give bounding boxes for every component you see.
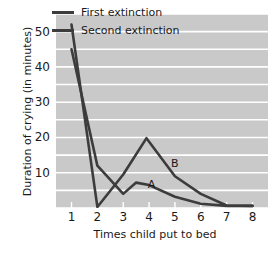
legend-item-second-extinction: Second extinction	[52, 21, 202, 39]
x-tick-label: 5	[165, 210, 185, 224]
legend-label-first-extinction: First extinction	[81, 6, 162, 19]
curve-annotation-b: B	[171, 157, 179, 170]
y-tick-label: 20	[28, 131, 50, 143]
series-line-B	[72, 25, 253, 207]
legend-swatch-first-extinction	[52, 11, 74, 14]
y-tick-label: 50	[28, 26, 50, 38]
gridlines	[56, 14, 268, 208]
x-tick-label: 4	[139, 210, 159, 224]
chart-legend: First extinction Second extinction	[52, 3, 202, 39]
x-tick-label: 6	[191, 210, 211, 224]
plot-svg	[56, 14, 268, 208]
series-lines	[72, 25, 253, 207]
x-tick-label: 1	[62, 210, 82, 224]
legend-swatch-second-extinction	[52, 29, 74, 32]
x-axis-tick-labels: 12345678	[56, 210, 268, 226]
y-tick-label: 30	[28, 96, 50, 108]
x-tick-label: 2	[87, 210, 107, 224]
y-tick-label: 40	[28, 61, 50, 73]
y-axis-tick-labels: 1020304050	[26, 0, 50, 255]
x-tick-label: 8	[242, 210, 262, 224]
y-tick-label: 10	[28, 167, 50, 179]
x-axis-title: Times child put to bed	[40, 228, 270, 241]
x-tick-label: 7	[217, 210, 237, 224]
plot-area: A B	[56, 14, 268, 208]
legend-item-first-extinction: First extinction	[52, 3, 202, 21]
series-line-A	[72, 49, 253, 206]
legend-label-second-extinction: Second extinction	[81, 24, 180, 37]
chart-figure: Duration of crying (in minutes) 10203040…	[0, 0, 278, 255]
x-tick-label: 3	[113, 210, 133, 224]
curve-annotation-a: A	[148, 178, 156, 191]
